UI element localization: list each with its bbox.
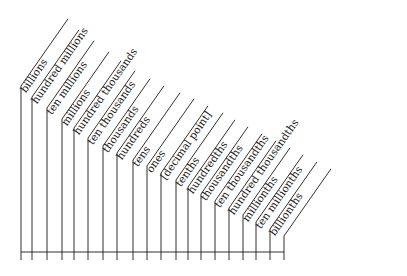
place-value-diagram: billionshundred millionsten millionsmill…: [0, 0, 407, 276]
